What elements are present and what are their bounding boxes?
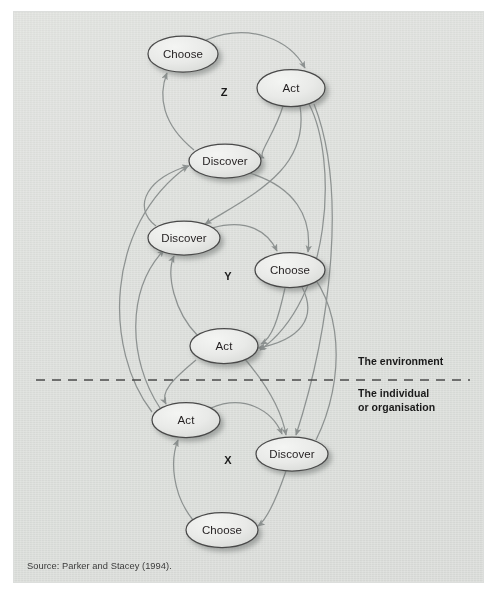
node-z-choose[interactable]: Choose [148,36,218,72]
node-label-x-act: Act [178,414,196,426]
node-y-act[interactable]: Act [190,329,258,364]
node-x-choose[interactable]: Choose [186,513,258,548]
node-y-choose[interactable]: Choose [255,253,325,288]
node-label-z-act: Act [283,82,301,94]
edge-y-discover-to-z-discover [144,166,189,226]
edge-z-act-to-y-act [260,104,325,350]
edge-x-act-to-x-discover [211,403,282,434]
individual-label: The individual or organisation [358,387,435,414]
individual-label-line1: The individual [358,387,435,401]
edge-z-discover-to-y-choose [246,172,309,252]
node-x-discover[interactable]: Discover [256,437,328,471]
node-x-act[interactable]: Act [152,403,220,438]
edge-z-act-to-z-discover [262,106,283,158]
edge-x-discover-to-x-choose [258,471,286,526]
edge-z-discover-to-z-choose [163,73,194,150]
cycles-diagram: ChooseActDiscoverDiscoverChooseActActDis… [0,0,497,594]
node-z-discover[interactable]: Discover [189,144,261,178]
edge-y-act-to-x-discover [244,358,286,435]
edge-y-act-to-x-act [164,360,196,404]
edge-x-act-to-z-discover [120,166,188,412]
node-label-x-discover: Discover [269,448,315,460]
node-label-y-choose: Choose [270,264,310,276]
node-z-act[interactable]: Act [257,70,325,107]
node-label-x-choose: Choose [202,524,242,536]
environment-label: The environment [358,355,443,369]
node-label-y-discover: Discover [161,232,207,244]
edge-z-choose-to-z-act [206,33,305,68]
edge-y-choose-to-y-act [261,288,285,344]
edge-y-act-to-y-discover [171,256,198,336]
cluster-label-X: X [224,454,232,466]
cluster-label-Y: Y [224,270,232,282]
cluster-label-Z: Z [221,86,228,98]
node-label-z-discover: Discover [202,155,248,167]
edge-y-discover-to-y-choose [212,225,277,251]
node-label-z-choose: Choose [163,48,203,60]
edge-x-choose-to-x-act [174,440,193,520]
cluster-labels-layer: ZYX [221,86,233,466]
individual-label-line2: or organisation [358,401,435,415]
edge-x-act-to-y-discover [136,250,164,408]
node-label-y-act: Act [216,340,234,352]
node-y-discover[interactable]: Discover [148,221,220,255]
source-caption: Source: Parker and Stacey (1994). [27,561,172,571]
figure-container: ChooseActDiscoverDiscoverChooseActActDis… [0,0,497,594]
